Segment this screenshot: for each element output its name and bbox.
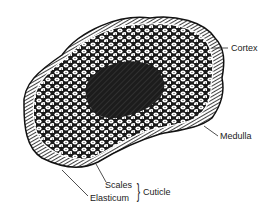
cuticle-label: Cuticle [143, 187, 171, 197]
cortex-label: Cortex [231, 43, 258, 53]
hair-cross-section-diagram [0, 0, 270, 213]
scales-label: Scales [105, 180, 132, 190]
elasticum-leader-line [62, 170, 88, 196]
cuticle-brace: } [137, 180, 140, 202]
medulla-label: Medulla [220, 131, 252, 141]
medulla-leader-line [204, 126, 218, 136]
elasticum-label: Elasticum [90, 193, 129, 203]
